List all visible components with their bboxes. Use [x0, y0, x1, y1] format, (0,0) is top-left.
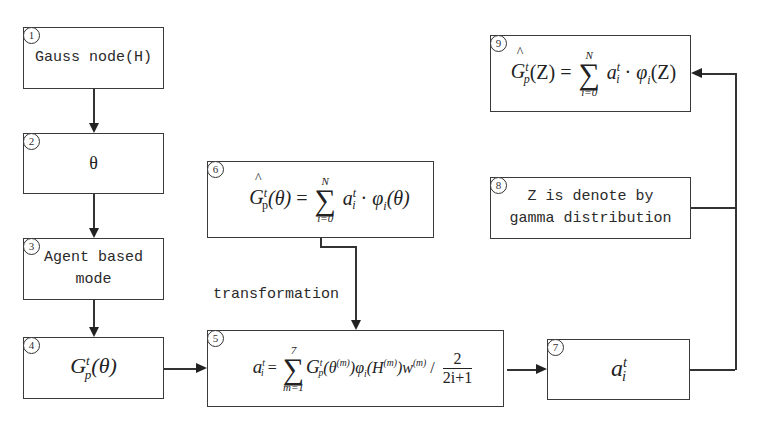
- edge-6-5: [320, 246, 356, 248]
- node-g-hat-theta-expansion: 6 Gtp(θ) = N∑i=0 ati · φi(θ): [207, 161, 434, 238]
- edge-3-4: [93, 300, 95, 328]
- sub-i: i: [352, 198, 355, 212]
- edge-7-9: [690, 369, 735, 371]
- node-number-badge: 9: [490, 35, 507, 52]
- equals-sign: =: [268, 358, 277, 375]
- node-coefficient: 7 ati: [547, 339, 690, 400]
- arrow-head-icon: [196, 363, 207, 373]
- symbol-phi: φ: [636, 60, 647, 82]
- symbol-g: G: [70, 353, 86, 378]
- symbol-phi: φ: [372, 186, 383, 208]
- node-number-badge: 4: [23, 337, 40, 354]
- symbol-phi: )φ: [350, 358, 364, 375]
- edge-2-3: [93, 194, 95, 229]
- node-theta: 2 θ: [23, 133, 164, 194]
- symbol-w: )w: [397, 358, 413, 375]
- symbol-g: G: [511, 60, 525, 82]
- arrow-head-icon: [536, 364, 547, 374]
- formula-a: ati: [611, 354, 626, 386]
- denominator: 2i+1: [443, 368, 472, 387]
- summation: N∑i=0: [578, 50, 599, 98]
- fraction: 22i+1: [443, 351, 472, 387]
- edge-5-7: [507, 369, 537, 371]
- sigma-icon: ∑: [283, 356, 304, 382]
- edge-4-5: [164, 368, 197, 370]
- equals-sign: =: [560, 60, 571, 82]
- node-agent-based-mode: 3 Agent based mode: [23, 238, 164, 300]
- arg-theta: (θ): [387, 186, 410, 208]
- node-label-line1: Z is denote by: [527, 186, 653, 208]
- formula-g-hat-z: Gtp(Z) = N∑i=0 ati · φi(Z): [511, 50, 676, 98]
- sum-lower: i=0: [581, 87, 597, 98]
- arrow-head-icon: [89, 123, 99, 133]
- dot-operator: ·: [361, 186, 368, 208]
- equals-sign: =: [296, 186, 307, 208]
- arrow-head-icon: [89, 228, 99, 238]
- sup-m: (m): [413, 357, 426, 368]
- summation: N∑i=0: [314, 176, 335, 224]
- edge-1-2: [93, 89, 95, 124]
- edge-6-5: [355, 246, 357, 321]
- sup-m: (m): [384, 357, 397, 368]
- sup-m: (m): [337, 357, 350, 368]
- formula-coefficient: ati = 7∑m=1Gtp(θ(m))φi(H(m))w(m) / 22i+1: [253, 345, 472, 393]
- sum-lower: m=1: [283, 382, 304, 393]
- arg-h: (H: [367, 358, 384, 375]
- node-label-line2: mode: [75, 269, 111, 291]
- sigma-icon: ∑: [578, 61, 599, 87]
- node-number-badge: 5: [207, 330, 224, 347]
- node-number-badge: 8: [490, 177, 507, 194]
- formula-g-hat-theta: Gtp(θ) = N∑i=0 ati · φi(θ): [249, 176, 410, 224]
- node-label-line1: Agent based: [44, 247, 143, 269]
- symbol-g: G: [249, 186, 263, 208]
- node-number-badge: 3: [23, 238, 40, 255]
- arg-theta: (θ): [91, 353, 116, 378]
- node-label-line2: gamma distribution: [509, 208, 671, 230]
- arg-z: (Z): [651, 60, 677, 82]
- node-label: θ: [89, 153, 98, 174]
- node-coefficient-formula: 5 ati = 7∑m=1Gtp(θ(m))φi(H(m))w(m) / 22i…: [207, 330, 504, 407]
- dot-operator: ·: [625, 60, 632, 82]
- symbol-g: G: [306, 355, 320, 376]
- edge-7-9: [702, 73, 736, 75]
- node-number-badge: 1: [23, 27, 40, 44]
- edge-7-9: [735, 73, 737, 370]
- node-number-badge: 2: [23, 133, 40, 150]
- node-number-badge: 6: [207, 161, 224, 178]
- formula-g-theta: Gtp(θ): [70, 353, 117, 383]
- arrow-head-icon: [89, 327, 99, 337]
- node-number-badge: 7: [547, 339, 564, 356]
- arrow-head-icon: [691, 68, 702, 78]
- hat-g: G: [249, 186, 263, 209]
- node-g-hat-z-expansion: 9 Gtp(Z) = N∑i=0 ati · φi(Z): [490, 35, 691, 112]
- edge-label-transformation: transformation: [213, 286, 339, 303]
- sub-i: i: [261, 367, 264, 378]
- arg-z: (Z): [530, 60, 556, 82]
- hat-g: G: [511, 60, 525, 83]
- edge-8-9: [691, 207, 735, 209]
- node-gauss-node: 1 Gauss node(H): [23, 27, 164, 89]
- node-g-theta: 4 Gtp(θ): [23, 337, 164, 399]
- numerator: 2: [453, 351, 461, 368]
- sub-i: i: [622, 368, 626, 384]
- arrow-head-icon: [351, 320, 361, 330]
- node-gamma-distribution: 8 Z is denote by gamma distribution: [490, 177, 691, 239]
- sub-i: i: [616, 72, 619, 86]
- arg-theta: (θ: [323, 358, 336, 375]
- arg-theta: (θ): [268, 186, 291, 208]
- summation: 7∑m=1: [283, 345, 304, 393]
- sup-t: t: [86, 353, 90, 368]
- node-label: Gauss node(H): [35, 47, 152, 69]
- divide-sign: /: [426, 358, 434, 375]
- sigma-icon: ∑: [314, 187, 335, 213]
- sum-lower: i=0: [317, 213, 333, 224]
